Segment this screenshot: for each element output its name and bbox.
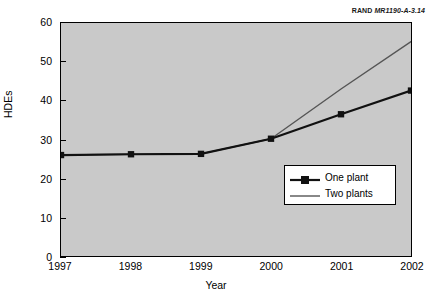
y-axis-tick-marks	[0, 0, 432, 305]
y-tick-mark	[60, 61, 66, 62]
y-tick-mark	[60, 100, 66, 101]
y-tick-mark	[60, 218, 66, 219]
legend-label-one-plant: One plant	[325, 173, 368, 183]
chart-figure: RAND MR1190-A-3.14 0102030405060 1997199…	[0, 0, 432, 305]
legend-item-one-plant: One plant	[290, 170, 390, 186]
y-tick-mark	[60, 179, 66, 180]
legend-item-two-plants: Two plants	[290, 186, 390, 202]
y-tick-mark	[60, 22, 66, 23]
legend-key-one-plant	[290, 172, 320, 184]
legend-key-two-plants	[290, 188, 320, 200]
x-axis-title: Year	[0, 279, 432, 291]
y-axis-title: HDEs	[2, 91, 14, 118]
chart-legend: One plant Two plants	[284, 165, 396, 205]
legend-label-two-plants: Two plants	[325, 189, 373, 199]
y-tick-mark	[60, 140, 66, 141]
y-tick-mark	[60, 257, 66, 258]
